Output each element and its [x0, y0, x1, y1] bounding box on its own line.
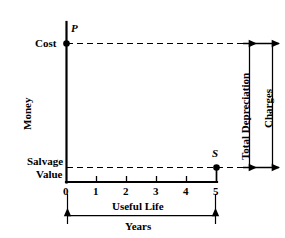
x-tick-label-2: 2: [123, 186, 129, 197]
useful-life-label: Useful Life: [112, 201, 164, 212]
x-tick-label-4: 4: [183, 186, 189, 197]
x-tick-label-5: 5: [213, 186, 219, 197]
charges-label: Charges: [263, 89, 274, 128]
y-axis-label: Money: [22, 98, 33, 130]
x-tick-label-0: 0: [63, 186, 69, 197]
y-tick-label-salvage-line2: Value: [36, 169, 63, 180]
x-tick-label-3: 3: [153, 186, 159, 197]
point-p-marker: [63, 40, 70, 47]
total-depreciation-label: Total Depreciation: [240, 73, 251, 160]
years-label: Years: [125, 221, 151, 232]
point-p-label: P: [71, 23, 78, 34]
point-s-label: S: [212, 148, 218, 159]
x-tick-label-1: 1: [93, 186, 99, 197]
y-tick-label-salvage-line1: Salvage: [27, 156, 63, 167]
depreciation-diagram: Money Cost Salvage Value P S 0 1 2 3 4 5…: [0, 0, 285, 238]
y-tick-label-cost: Cost: [35, 38, 56, 49]
point-s-marker: [213, 164, 220, 171]
